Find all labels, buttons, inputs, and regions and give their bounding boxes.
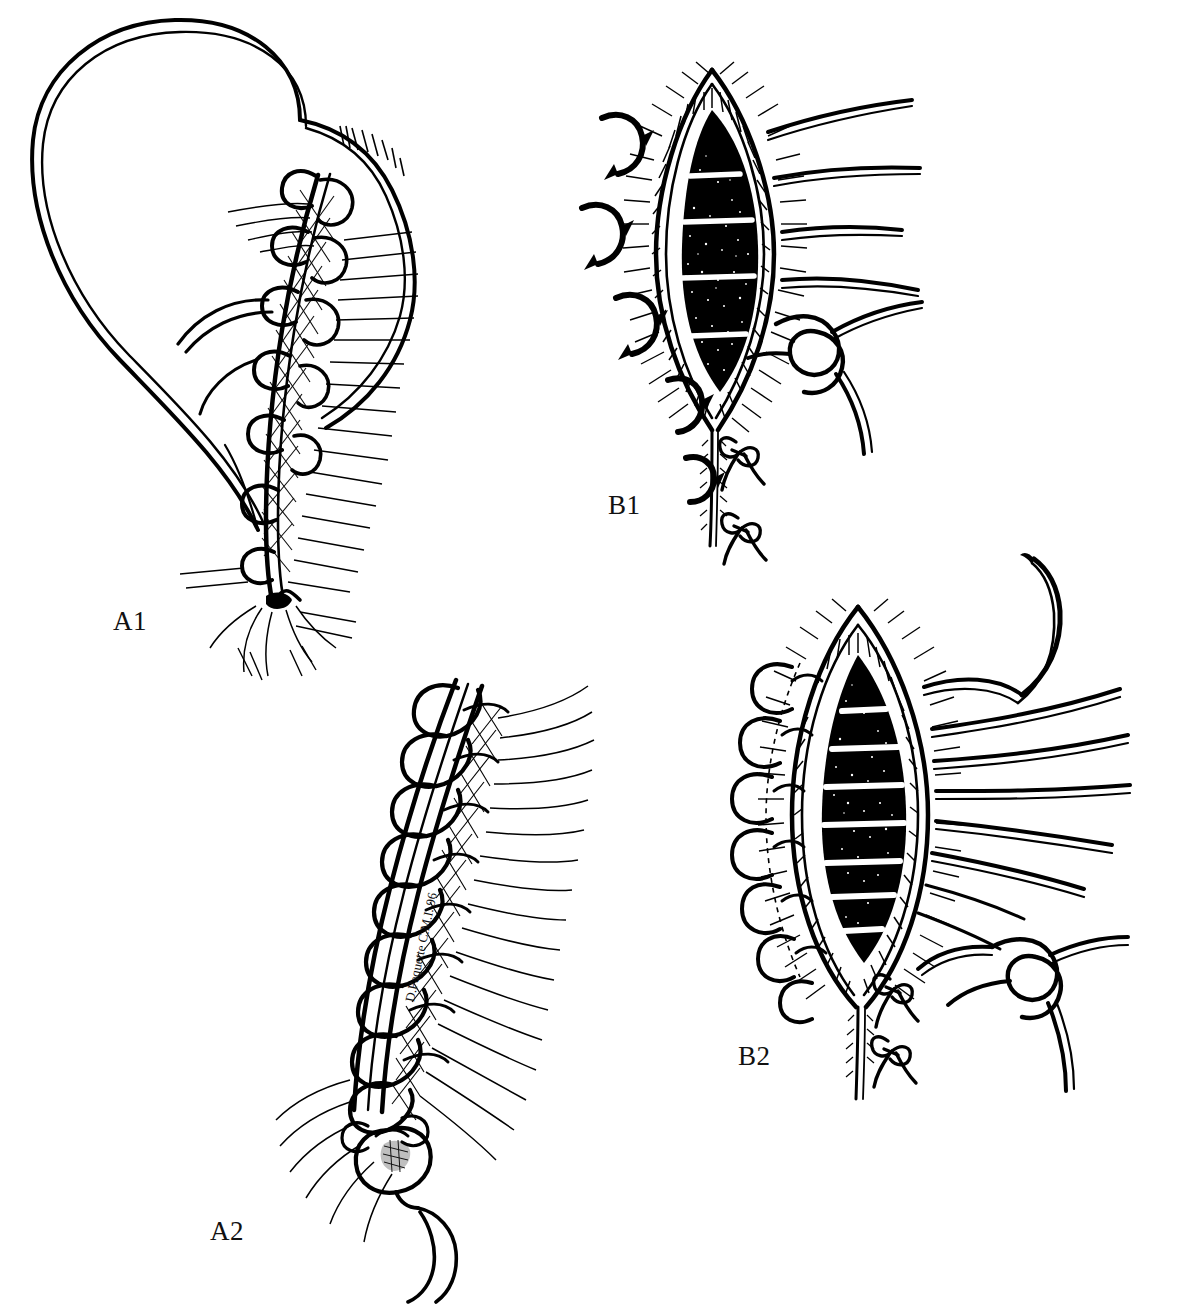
hatch-shading-left <box>276 1080 392 1242</box>
surgeon-knot <box>748 302 922 454</box>
panel-label-b1: B1 <box>608 492 641 519</box>
panel-b2: B2 <box>700 545 1180 1105</box>
panel-label-b2: B2 <box>738 1043 771 1070</box>
left-edge-suture-loops <box>732 664 826 1022</box>
closed-wound-ridge <box>354 680 482 1112</box>
panel-b2-artwork <box>700 545 1180 1105</box>
hatch-shading-right <box>420 686 594 1160</box>
untied-suture-strands <box>768 100 920 296</box>
panel-a1: A1 <box>0 0 480 700</box>
panel-label-a2: A2 <box>210 1218 244 1245</box>
tissue-flap-outline <box>32 20 415 530</box>
panel-a2-artwork <box>250 640 670 1316</box>
flap-edge-hatching <box>340 126 404 176</box>
panel-b1-artwork <box>560 40 980 560</box>
surgical-illustration-figure: A1 <box>0 0 1181 1316</box>
panel-label-a1: A1 <box>113 608 147 635</box>
panel-b1: B1 <box>560 40 980 560</box>
curved-needle <box>1018 553 1060 703</box>
terminal-knot-assembly <box>342 1116 456 1302</box>
suture-strands-right <box>918 679 1130 949</box>
open-wound-cavity <box>822 655 906 963</box>
tied-bow-knots <box>872 975 918 1087</box>
surgeon-knot-lower <box>918 937 1128 1091</box>
panel-a2: A2 <box>250 640 670 1316</box>
wound-tail-tissue <box>846 1007 874 1099</box>
panel-a1-artwork <box>0 0 480 700</box>
